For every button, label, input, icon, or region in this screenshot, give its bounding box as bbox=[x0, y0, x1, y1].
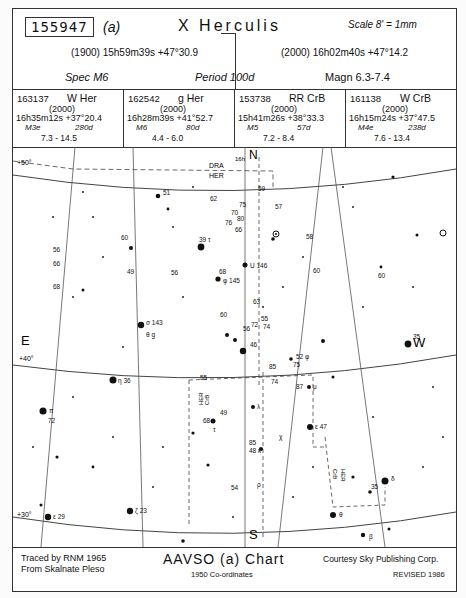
svg-text:HER: HER bbox=[340, 469, 346, 482]
svg-text:θ: θ bbox=[339, 511, 343, 518]
comp-name: W Her bbox=[67, 92, 97, 104]
svg-text:49: 49 bbox=[127, 268, 135, 275]
star-field: DRA HER HER CrB CrB HER N 16h S E W +50°… bbox=[13, 147, 456, 547]
chart-footer: Traced by RNM 1965 From Skalnate Pleso A… bbox=[13, 547, 456, 592]
svg-text:σ 143: σ 143 bbox=[146, 319, 163, 326]
svg-text:66: 66 bbox=[53, 260, 61, 267]
svg-text:74: 74 bbox=[263, 323, 271, 330]
svg-text:35: 35 bbox=[413, 333, 421, 340]
svg-text:ρ: ρ bbox=[257, 481, 261, 489]
spectral-type: Spec M6 bbox=[65, 71, 108, 83]
svg-text:87: 87 bbox=[296, 383, 304, 390]
dec-label-30: +30° bbox=[17, 511, 32, 518]
chart-type: AAVSO (a) Chart bbox=[163, 551, 284, 567]
svg-text:49: 49 bbox=[220, 409, 228, 416]
comp-radec: 16h35m12s +37°20.4 bbox=[16, 113, 102, 123]
comp-range: 7.3 - 14.5 bbox=[41, 133, 77, 143]
svg-text:58: 58 bbox=[306, 233, 314, 240]
svg-text:55: 55 bbox=[200, 374, 208, 381]
comp-period: 238d bbox=[408, 123, 426, 132]
comp-spec: M4e bbox=[358, 123, 374, 132]
star-chart: DRA HER HER CrB CrB HER N 16h S E W +50°… bbox=[13, 147, 456, 547]
aavso-chart-sheet: 155947 (a) X Herculis Scale 8' = 1mm (19… bbox=[12, 8, 457, 592]
svg-text:56: 56 bbox=[53, 246, 61, 253]
comp-id: 161138 bbox=[350, 93, 381, 104]
svg-text:φ 145: φ 145 bbox=[223, 277, 240, 285]
svg-text:CrB: CrB bbox=[204, 395, 210, 405]
comparison-star-2: 153738 RR CrB (2000) 15h41m26s +38°33.3 … bbox=[235, 89, 346, 147]
pointer-line bbox=[235, 33, 236, 89]
comp-radec: 16h28m39s +41°52.7 bbox=[127, 113, 213, 123]
revised: REVISED 1986 bbox=[393, 570, 445, 579]
svg-text:ζ 23: ζ 23 bbox=[135, 507, 147, 515]
svg-text:59: 59 bbox=[258, 185, 266, 192]
comparison-star-3: 161138 W CrB (2000) 16h15m24s +37°47.5 M… bbox=[346, 89, 456, 147]
comp-range: 7.6 - 13.4 bbox=[374, 133, 410, 143]
comp-name: RR CrB bbox=[289, 92, 325, 104]
pointer-line-tick bbox=[221, 33, 235, 34]
svg-text:λ: λ bbox=[257, 403, 261, 410]
comp-radec: 16h15m24s +37°47.5 bbox=[349, 113, 435, 123]
comparison-star-0: 163137 W Her (2000) 16h35m12s +37°20.4 M… bbox=[13, 89, 124, 147]
comp-period: 57d bbox=[297, 123, 310, 132]
svg-text:48 κ: 48 κ bbox=[249, 447, 262, 454]
traced-by-text: Traced by RNM 1965 bbox=[21, 553, 106, 564]
chart-id: 155947 bbox=[25, 17, 94, 37]
comp-spec: M6 bbox=[136, 123, 147, 132]
coords-2000: (2000) 16h02m40s +47°14.2 bbox=[281, 47, 408, 58]
east-label: E bbox=[21, 333, 30, 348]
svg-text:63: 63 bbox=[253, 298, 261, 305]
svg-text:75: 75 bbox=[293, 361, 301, 368]
svg-text:54: 54 bbox=[231, 484, 239, 491]
stars bbox=[40, 175, 419, 542]
svg-text:τ: τ bbox=[213, 426, 216, 433]
comp-id: 162542 bbox=[128, 93, 160, 104]
svg-text:55: 55 bbox=[261, 315, 269, 322]
svg-text:χ: χ bbox=[279, 433, 283, 441]
svg-text:η 36: η 36 bbox=[118, 377, 131, 385]
comp-radec: 15h41m26s +38°33.3 bbox=[238, 113, 324, 123]
svg-text:57: 57 bbox=[275, 203, 283, 210]
chart-scale: Scale 8' = 1mm bbox=[348, 19, 417, 30]
comp-spec: M5 bbox=[247, 123, 258, 132]
coords-1900: (1900) 15h59m39s +47°30.9 bbox=[71, 47, 198, 58]
svg-text:52 φ: 52 φ bbox=[296, 353, 309, 361]
coords-note: 1950 Co-ordinates bbox=[191, 570, 253, 579]
dec-line-40 bbox=[13, 355, 456, 378]
comp-spec: M3e bbox=[25, 123, 41, 132]
comparison-star-1: 162542 g Her (2000) 16h28m39s +41°52.7 M… bbox=[124, 89, 235, 147]
comp-range: 4.4 - 6.0 bbox=[152, 133, 183, 143]
faint-stars bbox=[32, 186, 444, 518]
svg-text:π: π bbox=[49, 407, 54, 414]
svg-text:72: 72 bbox=[48, 417, 56, 424]
comparison-stars-row: 163137 W Her (2000) 16h35m12s +37°20.4 M… bbox=[13, 89, 456, 148]
dec-label-40: +40° bbox=[19, 355, 34, 362]
svg-text:80: 80 bbox=[237, 215, 245, 222]
svg-text:66: 66 bbox=[235, 226, 243, 233]
svg-text:U 146: U 146 bbox=[250, 262, 268, 269]
source-text: From Skalnate Pleso bbox=[21, 564, 106, 575]
svg-text:56: 56 bbox=[243, 325, 251, 332]
comp-id: 163137 bbox=[17, 93, 49, 104]
svg-text:39 τ: 39 τ bbox=[199, 236, 211, 243]
svg-text:68: 68 bbox=[53, 283, 61, 290]
svg-text:60: 60 bbox=[220, 311, 228, 318]
svg-text:85: 85 bbox=[269, 363, 277, 370]
label-her: HER bbox=[209, 172, 224, 179]
svg-text:β: β bbox=[369, 533, 373, 541]
svg-text:75: 75 bbox=[239, 201, 247, 208]
svg-text:62: 62 bbox=[210, 195, 218, 202]
label-dra: DRA bbox=[209, 162, 224, 169]
courtesy: Courtesy Sky Publishing Corp. bbox=[323, 554, 438, 564]
star-labels: 5162 7075 7680 6659 5758 6056 5666 6849 … bbox=[48, 185, 421, 541]
svg-text:72: 72 bbox=[251, 321, 259, 328]
magnitude-range: Magn 6.3-7.4 bbox=[325, 71, 390, 83]
svg-text:θ g: θ g bbox=[146, 331, 155, 339]
svg-text:CrB: CrB bbox=[332, 469, 338, 479]
svg-text:68: 68 bbox=[203, 417, 211, 424]
chart-suffix: (a) bbox=[103, 19, 120, 35]
chart-header: 155947 (a) X Herculis Scale 8' = 1mm (19… bbox=[13, 9, 456, 90]
comp-id: 153738 bbox=[239, 93, 271, 104]
comp-period: 80d bbox=[186, 123, 199, 132]
svg-text:85: 85 bbox=[249, 439, 257, 446]
